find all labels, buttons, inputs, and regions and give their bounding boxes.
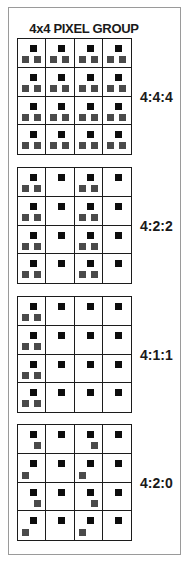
chroma-sample-icon — [22, 472, 29, 479]
luma-sample-icon — [30, 332, 37, 339]
pixel-cell — [46, 483, 74, 512]
chroma-sample-icon — [50, 142, 57, 149]
chroma-sample-icon — [119, 85, 126, 92]
scheme-label: 4:1:1 — [140, 347, 173, 363]
pixel-cell — [103, 125, 131, 154]
luma-sample-icon — [30, 389, 37, 396]
chroma-sample-icon — [34, 400, 41, 407]
pixel-cell — [18, 511, 46, 540]
pixel-cell — [18, 254, 46, 283]
pixel-grid-4-2-2 — [17, 167, 132, 284]
chroma-sample-icon — [22, 343, 29, 350]
chroma-sample-icon — [91, 56, 98, 63]
luma-sample-icon — [115, 74, 122, 81]
pixel-cell — [46, 197, 74, 226]
pixel-cell — [18, 383, 46, 412]
luma-sample-icon — [30, 361, 37, 368]
luma-sample-icon — [87, 389, 94, 396]
pixel-cell — [18, 197, 46, 226]
chroma-sample-icon — [22, 271, 29, 278]
pixel-cell — [75, 425, 103, 454]
pixel-cell — [75, 226, 103, 255]
chroma-sample-icon — [34, 314, 41, 321]
pixel-cell — [103, 97, 131, 126]
luma-sample-icon — [87, 45, 94, 52]
chroma-sample-icon — [91, 114, 98, 121]
chroma-sample-icon — [50, 56, 57, 63]
chroma-sample-icon — [50, 114, 57, 121]
luma-sample-icon — [58, 431, 65, 438]
luma-sample-icon — [115, 431, 122, 438]
luma-sample-icon — [115, 103, 122, 110]
pixel-cell — [18, 68, 46, 97]
luma-sample-icon — [115, 332, 122, 339]
pixel-cell — [46, 68, 74, 97]
pixel-cell — [75, 168, 103, 197]
luma-sample-icon — [115, 203, 122, 210]
chroma-sample-icon — [22, 314, 29, 321]
chroma-sample-icon — [34, 56, 41, 63]
luma-sample-icon — [58, 389, 65, 396]
pixel-cell — [75, 39, 103, 68]
pixel-cell — [103, 226, 131, 255]
pixel-cell — [18, 425, 46, 454]
pixel-cell — [46, 383, 74, 412]
luma-sample-icon — [87, 103, 94, 110]
chroma-sample-icon — [62, 85, 69, 92]
chroma-sample-icon — [107, 114, 114, 121]
pixel-cell — [46, 97, 74, 126]
pixel-cell — [75, 454, 103, 483]
pixel-cell — [103, 68, 131, 97]
chroma-sample-icon — [22, 529, 29, 536]
chroma-sample-icon — [79, 142, 86, 149]
luma-sample-icon — [58, 460, 65, 467]
luma-sample-icon — [115, 232, 122, 239]
pixel-cell — [103, 511, 131, 540]
chroma-sample-icon — [34, 372, 41, 379]
chroma-sample-icon — [62, 114, 69, 121]
pixel-cell — [46, 226, 74, 255]
chroma-sample-icon — [91, 214, 98, 221]
chroma-sample-icon — [91, 243, 98, 250]
luma-sample-icon — [58, 517, 65, 524]
pixel-cell — [75, 383, 103, 412]
pixel-cell — [75, 68, 103, 97]
luma-sample-icon — [58, 131, 65, 138]
luma-sample-icon — [115, 361, 122, 368]
luma-sample-icon — [115, 303, 122, 310]
pixel-cell — [18, 39, 46, 68]
luma-sample-icon — [58, 332, 65, 339]
chroma-sample-icon — [62, 56, 69, 63]
chroma-sample-icon — [91, 271, 98, 278]
luma-sample-icon — [115, 131, 122, 138]
luma-sample-icon — [30, 303, 37, 310]
pixel-cell — [75, 197, 103, 226]
luma-sample-icon — [87, 431, 94, 438]
scheme-label: 4:2:2 — [140, 218, 173, 234]
pixel-cell — [103, 355, 131, 384]
luma-sample-icon — [115, 260, 122, 267]
luma-sample-icon — [30, 45, 37, 52]
chroma-sample-icon — [119, 56, 126, 63]
chroma-sample-icon — [79, 243, 86, 250]
pixel-cell — [103, 197, 131, 226]
pixel-cell — [103, 425, 131, 454]
chroma-sample-icon — [119, 114, 126, 121]
luma-sample-icon — [87, 174, 94, 181]
luma-sample-icon — [115, 389, 122, 396]
luma-sample-icon — [30, 517, 37, 524]
chroma-sample-icon — [119, 142, 126, 149]
chroma-sample-icon — [22, 142, 29, 149]
luma-sample-icon — [30, 203, 37, 210]
chroma-sample-icon — [91, 85, 98, 92]
chroma-sample-icon — [107, 85, 114, 92]
luma-sample-icon — [87, 260, 94, 267]
luma-sample-icon — [58, 303, 65, 310]
pixel-cell — [103, 326, 131, 355]
pixel-cell — [46, 454, 74, 483]
chroma-sample-icon — [34, 185, 41, 192]
chroma-sample-icon — [50, 85, 57, 92]
chroma-sample-icon — [79, 271, 86, 278]
luma-sample-icon — [30, 431, 37, 438]
scheme-label: 4:2:0 — [140, 475, 173, 491]
